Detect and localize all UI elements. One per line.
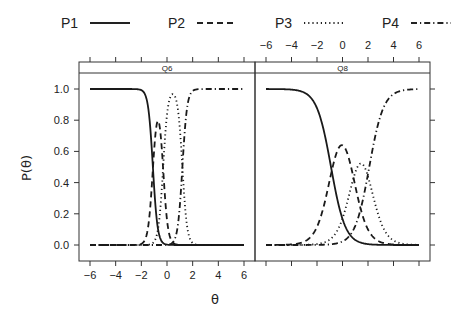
x-axis-label: θ — [211, 292, 219, 307]
x-tick-label: −4 — [109, 269, 122, 281]
x-tick-label: −4 — [285, 39, 298, 51]
x-tick-label: −6 — [84, 269, 97, 281]
curve-q8-p1 — [266, 89, 419, 245]
curve-q6-p1 — [90, 89, 244, 245]
x-tick-label: 0 — [164, 269, 170, 281]
legend-label-p3: P3 — [275, 15, 292, 31]
legend-label-p1: P1 — [61, 15, 78, 31]
irt-category-response-chart: P1P2P3P4 Q6Q8 −6−4−20246−6−4−202460.00.2… — [0, 0, 467, 321]
curve-q6-p2 — [90, 121, 244, 245]
panel-q6: Q6 — [79, 62, 255, 261]
legend-label-p4: P4 — [382, 15, 399, 31]
curve-q6-p4 — [90, 89, 244, 245]
curve-q6-p3 — [90, 94, 244, 245]
x-tick-label: −2 — [311, 39, 324, 51]
strip-label-q8: Q8 — [337, 64, 348, 73]
x-tick-label: 2 — [365, 39, 371, 51]
y-tick-label: 0.8 — [54, 114, 69, 126]
panel-q8: Q8 — [255, 62, 430, 261]
strip-label-q6: Q6 — [162, 64, 173, 73]
x-tick-label: 0 — [339, 39, 345, 51]
x-tick-label: 6 — [241, 269, 247, 281]
x-tick-label: 6 — [416, 39, 422, 51]
y-tick-label: 0.0 — [54, 239, 69, 251]
y-tick-label: 0.4 — [54, 177, 69, 189]
y-tick-label: 1.0 — [54, 83, 69, 95]
panels: Q6Q8 — [79, 62, 430, 261]
x-tick-label: −6 — [260, 39, 273, 51]
y-tick-label: 0.6 — [54, 145, 69, 157]
x-tick-label: 4 — [215, 269, 221, 281]
x-tick-label: 2 — [190, 269, 196, 281]
y-axis-label: P(θ) — [19, 155, 34, 181]
x-tick-label: 4 — [390, 39, 396, 51]
y-tick-label: 0.2 — [54, 208, 69, 220]
curve-q8-p3 — [266, 163, 419, 245]
x-tick-label: −2 — [135, 269, 148, 281]
legend-label-p2: P2 — [168, 15, 185, 31]
curve-q8-p2 — [266, 145, 419, 245]
legend: P1P2P3P4 — [61, 15, 451, 31]
